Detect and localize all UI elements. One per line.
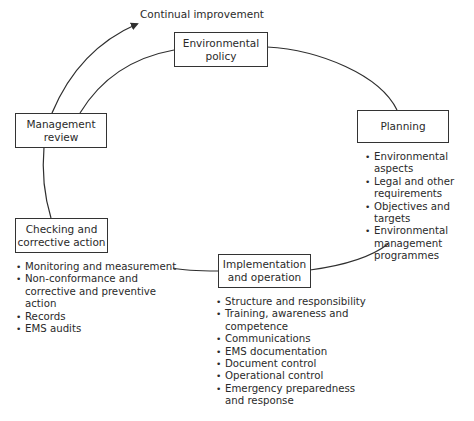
planning-items: Environmental aspects Legal and other re… xyxy=(365,151,474,263)
list-item: Legal and other requirements xyxy=(365,176,474,201)
stage-label: Environmental policy xyxy=(183,37,259,63)
connector-policy-planning xyxy=(267,47,397,110)
connector-checking-review xyxy=(43,147,51,218)
list-item: Document control xyxy=(216,358,366,370)
list-item: EMS documentation xyxy=(216,346,366,358)
connector-review-policy xyxy=(80,50,174,113)
stage-label: Checking and corrective action xyxy=(17,223,105,249)
stage-planning: Planning xyxy=(357,110,449,143)
list-item: Operational control xyxy=(216,370,366,382)
stage-label: Implementation and operation xyxy=(223,258,306,284)
list-item: Objectives and targets xyxy=(365,201,474,226)
list-item: Environmental management programmes xyxy=(365,225,474,262)
stage-implementation-operation: Implementation and operation xyxy=(218,254,311,288)
list-item: Emergency preparedness and response xyxy=(216,383,366,408)
list-item: EMS audits xyxy=(16,323,176,335)
list-item: Training, awareness and competence xyxy=(216,308,366,333)
stage-label: Management review xyxy=(26,118,95,144)
list-item: Communications xyxy=(216,333,366,345)
list-item: Environmental aspects xyxy=(365,151,474,176)
continual-improvement-label: Continual improvement xyxy=(140,8,264,21)
list-item: Structure and responsibility xyxy=(216,296,366,308)
list-item: Records xyxy=(16,311,176,323)
connector-implementation-checking xyxy=(173,268,218,271)
checking-items: Monitoring and measurement Non-conforman… xyxy=(16,261,176,335)
implementation-items: Structure and responsibility Training, a… xyxy=(216,296,366,408)
stage-label: Planning xyxy=(380,120,425,133)
stage-management-review: Management review xyxy=(15,113,107,148)
list-item: Non-conformance and corrective and preve… xyxy=(16,273,176,310)
stage-environmental-policy: Environmental policy xyxy=(174,32,268,67)
stage-checking-corrective-action: Checking and corrective action xyxy=(15,218,108,253)
list-item: Monitoring and measurement xyxy=(16,261,176,273)
